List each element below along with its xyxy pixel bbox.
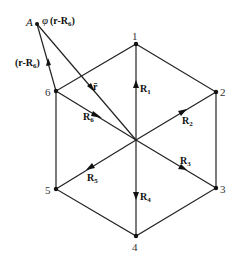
point-A-label: A <box>25 16 33 28</box>
phi-argument: (r-R6) <box>50 15 75 28</box>
vertex-label-3: 3 <box>220 183 226 195</box>
arrow-R4-icon <box>133 192 139 200</box>
vertex-label-5: 5 <box>45 184 51 196</box>
arrowheads <box>46 58 187 200</box>
vertex-label-2: 2 <box>220 86 226 98</box>
R5-label: R5 <box>87 172 98 185</box>
phi-symbol: φ <box>42 14 48 26</box>
r-minus-R6-label: (r-R6) <box>15 57 40 70</box>
r-vector-label: r̄ <box>93 81 98 92</box>
vertex-label-4: 4 <box>132 241 138 253</box>
R1-label: R1 <box>140 83 151 96</box>
hexagon-vector-diagram: 1 2 3 4 5 6 A φ (r-R6) (r-R6) r̄ R1 R2 R… <box>0 0 238 259</box>
vertex-label-6: 6 <box>45 86 51 98</box>
arrow-R5-icon <box>86 163 95 170</box>
R2-label: R2 <box>182 115 193 128</box>
vertex-label-1: 1 <box>132 30 138 42</box>
arrow-R1-icon <box>133 80 139 88</box>
R4-label: R4 <box>140 191 151 204</box>
lines-from-point-A <box>37 24 136 140</box>
